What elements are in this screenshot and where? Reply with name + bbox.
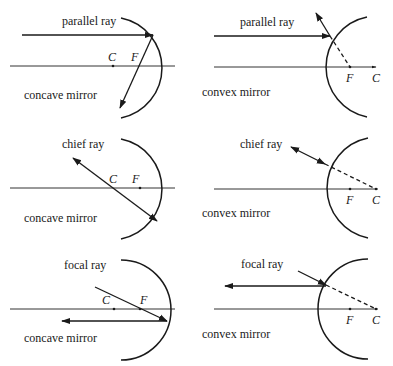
focal-point	[349, 308, 352, 311]
center-point	[113, 308, 116, 311]
c-label: C	[102, 293, 111, 307]
ray-label: focal ray	[241, 257, 283, 271]
mirror-label: convex mirror	[202, 327, 270, 341]
ray-label: chief ray	[240, 137, 282, 151]
c-label: C	[372, 71, 381, 85]
f-label: F	[345, 71, 354, 85]
concave-mirror	[121, 18, 162, 118]
virtual-ray	[325, 164, 376, 189]
mirror-label: concave mirror	[24, 88, 97, 102]
f-label: F	[131, 172, 140, 186]
c-label: C	[372, 193, 381, 207]
focal-point	[139, 308, 142, 311]
ray-label: focal ray	[64, 258, 106, 272]
panel-convex-parallel: parallel ray F C convex mirror	[202, 13, 381, 117]
mirror-label: concave mirror	[24, 331, 97, 345]
panel-concave-chief: chief ray C F concave mirror	[10, 137, 175, 239]
concave-mirror	[121, 139, 162, 239]
f-label: F	[345, 313, 354, 327]
panel-convex-focal: focal ray F C convex mirror	[202, 257, 381, 359]
f-label: F	[139, 293, 148, 307]
ray-label: parallel ray	[62, 14, 116, 28]
c-label: C	[108, 50, 117, 64]
panel-convex-chief: chief ray F C convex mirror	[202, 137, 381, 238]
virtual-ray	[326, 285, 376, 309]
ray-label: parallel ray	[240, 15, 294, 29]
incident-ray	[298, 271, 326, 285]
reflected-ray	[316, 13, 330, 36]
convex-mirror	[327, 138, 368, 238]
mirror-label: convex mirror	[202, 85, 270, 99]
ray-diagram: parallel ray C F concave mirror parallel…	[0, 0, 393, 366]
mirror-label: concave mirror	[24, 211, 97, 225]
c-label: C	[372, 313, 381, 327]
chief-ray	[291, 147, 325, 164]
focal-point	[349, 188, 352, 191]
center-point	[375, 308, 378, 311]
focal-point	[349, 66, 352, 69]
f-label: F	[345, 193, 354, 207]
focal-point	[139, 187, 142, 190]
panel-concave-focal: focal ray C F concave mirror	[10, 258, 175, 360]
ray-label: chief ray	[62, 137, 104, 151]
panel-concave-parallel: parallel ray C F concave mirror	[10, 14, 175, 118]
center-point	[375, 188, 378, 191]
concave-mirror	[121, 260, 171, 360]
c-label: C	[109, 172, 118, 186]
reflected-ray	[120, 35, 153, 108]
f-label: F	[130, 50, 139, 64]
center-point	[112, 65, 115, 68]
mirror-label: convex mirror	[202, 206, 270, 220]
